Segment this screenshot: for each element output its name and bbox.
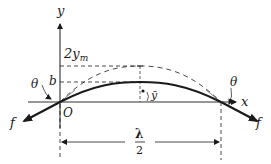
b-label: b — [49, 74, 57, 88]
theta-right-label: θ — [230, 75, 238, 89]
y-bar-label: ȳ — [150, 89, 158, 102]
theta-left-label: θ — [31, 77, 39, 91]
force-right-label: f — [255, 115, 263, 130]
dashed-sine-curve — [60, 66, 221, 102]
origin-label: O — [63, 106, 73, 120]
y-axis-label: y — [56, 3, 65, 18]
half-label: 2 — [136, 144, 143, 157]
string-curve — [60, 82, 221, 102]
x-axis-label: x — [241, 94, 249, 109]
lambda-label: λ — [135, 127, 143, 141]
force-arrow-right — [221, 102, 257, 121]
amplitude-label: 2ym — [63, 46, 88, 63]
force-arrow-left — [24, 102, 60, 121]
string-wave-diagram: y x O 2ym b ȳ θ θ f f λ 2 — [0, 0, 271, 164]
y-bar-brace — [147, 92, 149, 101]
centroid-dot — [141, 89, 144, 92]
force-left-label: f — [9, 115, 17, 130]
